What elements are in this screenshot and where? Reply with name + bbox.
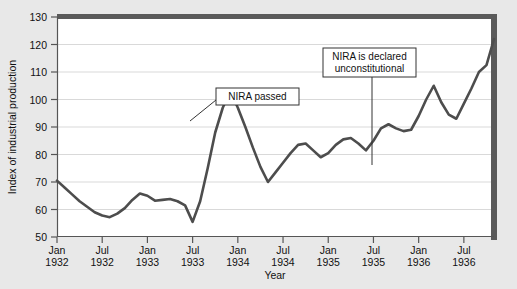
y-tick-label: 50 — [35, 231, 47, 243]
y-tick-label: 60 — [35, 204, 47, 216]
x-tick-label-month: Jan — [229, 244, 246, 256]
x-tick-label-month: Jan — [49, 244, 66, 256]
x-tick-label-month: Jul — [457, 244, 470, 256]
x-tick-label-month: Jul — [95, 244, 108, 256]
y-tick-label: 130 — [29, 11, 47, 23]
nira-unconstitutional-label-line1: NIRA is declared — [332, 51, 406, 62]
x-tick-label-year: 1933 — [136, 256, 160, 268]
x-axis-title: Year — [264, 269, 286, 281]
x-tick-label-year: 1936 — [452, 256, 476, 268]
x-tick-label-year: 1936 — [407, 256, 431, 268]
nira-passed-label: NIRA passed — [228, 91, 286, 102]
y-axis-title: Index of industrial production — [6, 60, 18, 194]
y-tick-label: 90 — [35, 121, 47, 133]
x-tick-label-year: 1932 — [91, 256, 115, 268]
y-tick-label: 80 — [35, 149, 47, 161]
x-tick-label-month: Jul — [276, 244, 289, 256]
y-tick-label: 100 — [29, 94, 47, 106]
x-tick-label-month: Jan — [410, 244, 427, 256]
y-tick-label: 120 — [29, 39, 47, 51]
x-tick-label-month: Jan — [320, 244, 337, 256]
x-tick-label-month: Jul — [186, 244, 199, 256]
industrial-production-line-chart: 130 120 110 100 90 80 70 60 50 Index of … — [0, 0, 517, 289]
figure-panel: 130 120 110 100 90 80 70 60 50 Index of … — [0, 0, 517, 289]
x-tick-label-year: 1934 — [271, 256, 295, 268]
y-tick-label: 70 — [35, 176, 47, 188]
x-tick-label-month: Jul — [367, 244, 380, 256]
x-tick-label-year: 1935 — [317, 256, 341, 268]
y-tick-label: 110 — [30, 66, 47, 78]
x-tick-label-year: 1932 — [45, 256, 69, 268]
x-tick-label-year: 1935 — [362, 256, 386, 268]
x-tick-label-year: 1934 — [226, 256, 250, 268]
x-tick-label-month: Jan — [139, 244, 156, 256]
nira-unconstitutional-label-line2: unconstitutional — [335, 63, 405, 74]
x-tick-label-year: 1933 — [181, 256, 205, 268]
